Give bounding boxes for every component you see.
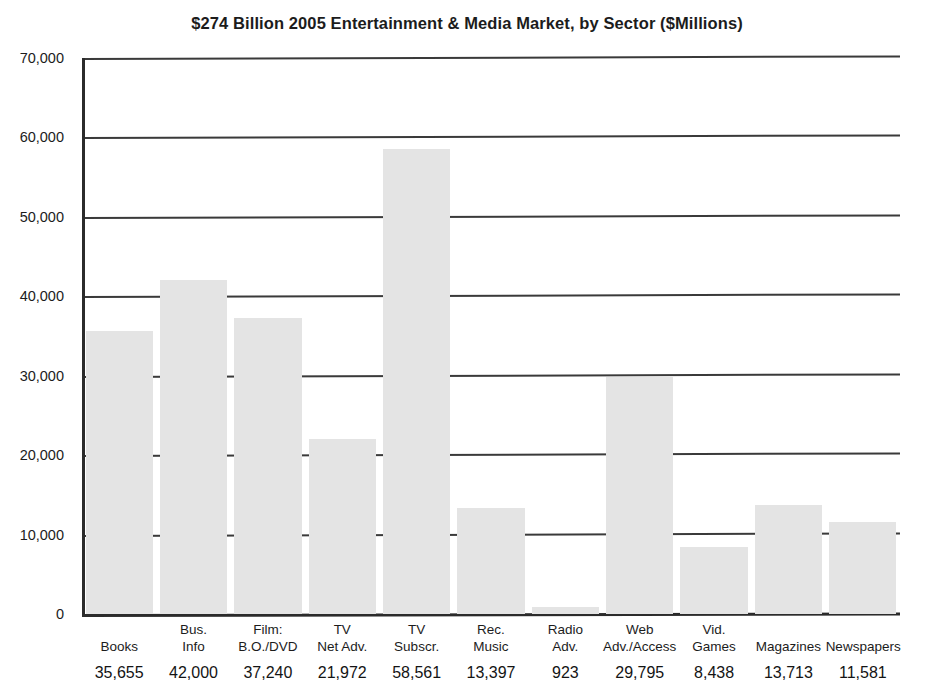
y-tick-label-50000: 50,000 <box>20 209 64 225</box>
category-line <box>826 621 900 638</box>
category-line: Subscr. <box>379 638 453 655</box>
bar-series <box>82 58 900 614</box>
category-line: Magazines <box>751 638 825 655</box>
bar-newspapers <box>829 522 896 614</box>
category-line: Bus. <box>156 621 230 638</box>
category-line: Newspapers <box>826 638 900 655</box>
bar-vid-games <box>680 547 747 614</box>
y-tick-label-70000: 70,000 <box>20 50 64 66</box>
x-label-group-4: TVSubscr.58,561 <box>379 614 453 683</box>
category-line: Books <box>82 638 156 655</box>
y-axis-tick-labels: 010,00020,00030,00040,00050,00060,00070,… <box>0 0 74 694</box>
category-value: 21,972 <box>305 663 379 683</box>
y-tick-label-0: 0 <box>56 606 64 622</box>
x-label-group-0: Books35,655 <box>82 614 156 683</box>
chart-title: $274 Billion 2005 Entertainment & Media … <box>0 14 934 33</box>
y-tick-label-20000: 20,000 <box>20 447 64 463</box>
x-label-group-3: TVNet Adv.21,972 <box>305 614 379 683</box>
x-label-group-7: WebAdv./Access29,795 <box>603 614 677 683</box>
category-line: Vid. <box>677 621 751 638</box>
chart-figure: $274 Billion 2005 Entertainment & Media … <box>0 0 934 694</box>
category-line: TV <box>379 621 453 638</box>
x-label-group-6: RadioAdv.923 <box>528 614 602 683</box>
category-value: 11,581 <box>826 663 900 683</box>
category-line: Adv./Access <box>603 638 677 655</box>
category-value: 13,397 <box>454 663 528 683</box>
category-value: 923 <box>528 663 602 683</box>
x-label-group-9: Magazines13,713 <box>751 614 825 683</box>
category-line: B.O./DVD <box>231 638 305 655</box>
bar-tv-net-adv <box>309 439 376 614</box>
bar-books <box>86 331 153 614</box>
category-line: Film: <box>231 621 305 638</box>
x-axis-category-labels: Books35,655Bus.Info42,000Film:B.O./DVD37… <box>82 614 900 694</box>
category-line: Info <box>156 638 230 655</box>
category-line <box>751 621 825 638</box>
x-label-group-10: Newspapers11,581 <box>826 614 900 683</box>
bar-rec-music <box>457 508 524 614</box>
category-line: Radio <box>528 621 602 638</box>
x-label-group-2: Film:B.O./DVD37,240 <box>231 614 305 683</box>
category-line: Rec. <box>454 621 528 638</box>
y-tick-label-60000: 60,000 <box>20 129 64 145</box>
category-line <box>82 621 156 638</box>
category-line: TV <box>305 621 379 638</box>
category-value: 37,240 <box>231 663 305 683</box>
x-label-group-5: Rec.Music13,397 <box>454 614 528 683</box>
category-value: 29,795 <box>603 663 677 683</box>
x-label-group-8: Vid.Games8,438 <box>677 614 751 683</box>
bar-magazines <box>755 505 822 614</box>
category-line: Music <box>454 638 528 655</box>
category-value: 42,000 <box>156 663 230 683</box>
bar-web-adv-access <box>606 377 673 614</box>
category-value: 13,713 <box>751 663 825 683</box>
category-line: Net Adv. <box>305 638 379 655</box>
bar-film-b-o-dvd <box>234 318 301 614</box>
category-line: Adv. <box>528 638 602 655</box>
y-axis-spine <box>82 58 85 614</box>
category-value: 35,655 <box>82 663 156 683</box>
y-tick-label-10000: 10,000 <box>20 527 64 543</box>
bar-radio-adv <box>532 607 599 614</box>
category-value: 58,561 <box>379 663 453 683</box>
category-line: Web <box>603 621 677 638</box>
bar-bus-info <box>160 280 227 614</box>
bar-tv-subscr <box>383 149 450 614</box>
x-label-group-1: Bus.Info42,000 <box>156 614 230 683</box>
category-value: 8,438 <box>677 663 751 683</box>
category-line: Games <box>677 638 751 655</box>
plot-area <box>82 58 900 614</box>
y-tick-label-40000: 40,000 <box>20 288 64 304</box>
y-tick-label-30000: 30,000 <box>20 368 64 384</box>
